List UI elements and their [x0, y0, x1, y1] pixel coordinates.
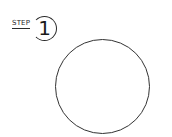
step-label: STEP	[12, 19, 30, 29]
circle-shape	[55, 39, 150, 134]
step-number: 1	[32, 16, 57, 41]
